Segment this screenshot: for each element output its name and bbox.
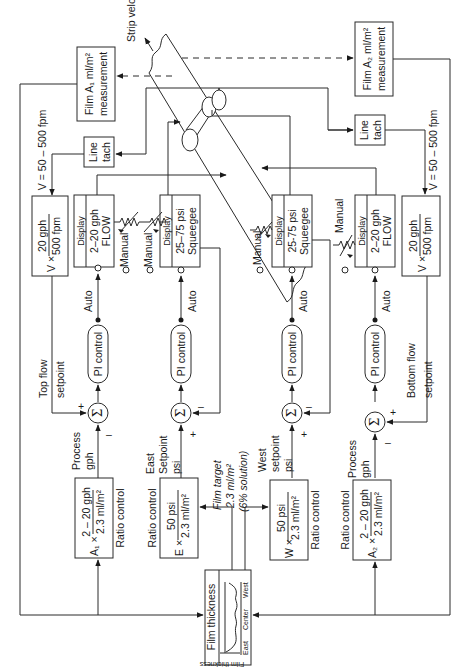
ratio-a2-den: 2.3 ml/m² <box>372 492 384 536</box>
line-tach-right-1: Line <box>358 120 370 140</box>
film-thickness-axis-label: Film thickness <box>199 661 244 668</box>
ratio-a2-label: Ratio control <box>339 491 351 550</box>
film-a2-sublabel: measurement <box>375 27 387 91</box>
line-tach-left: Line tach <box>84 137 114 167</box>
film-a2-label: Film A₂ ml/m² <box>361 27 373 90</box>
ratio-west-prefix: W × <box>283 539 295 558</box>
film-thickness-title: Film thickness <box>205 584 217 651</box>
top-flow-setpoint-2: setpoint <box>54 361 66 398</box>
process-west-1: West <box>256 448 268 472</box>
display-bottom-range: 2–20 gph <box>369 209 381 253</box>
sum-east: Σ <box>171 403 191 423</box>
film-a1-sublabel: measurement <box>97 52 109 116</box>
sum-bottom-symbol: Σ <box>368 418 382 426</box>
auto-contact-west[interactable] <box>289 267 295 273</box>
line-tach-right: Line tach <box>355 115 385 145</box>
film-target-label: Film target 2.3 ml/m² (6% solution) <box>211 451 249 512</box>
sign-top-minus: – <box>106 428 112 440</box>
film-a2-measurement: Film A₂ ml/m² measurement <box>355 22 393 96</box>
manual-label-east: Manual <box>142 233 154 267</box>
sum-west-symbol: Σ <box>285 409 299 417</box>
process-west-2: setpoint <box>269 435 281 472</box>
roller-bottom-left <box>182 129 198 151</box>
display-east-squeegee: Display 25–75 psi Squeegee <box>160 195 200 267</box>
process-top-2: gph <box>83 452 95 470</box>
display-west-range: 25-75 psi <box>286 209 298 252</box>
display-top-flow-range: 2–20 gph <box>88 209 100 253</box>
strip-velocity-label-1: Strip velocity <box>125 0 137 42</box>
process-east-3: psi <box>170 461 182 474</box>
ratio-a1-prefix: A₁ × <box>88 536 100 556</box>
display-west-header: Display <box>274 216 284 246</box>
auto-label-bottom: Auto <box>380 290 392 312</box>
manual-contact-west[interactable] <box>257 267 263 273</box>
sign-west-plus: + <box>301 428 307 440</box>
process-bottom-2: gph <box>359 460 371 478</box>
ratio-control-a1: A₁ × 2 – 20 gph 2.3 ml/m² Ratio control <box>75 478 126 558</box>
velocity-ratio-left: V × 20 gph 500 fpm <box>32 196 68 276</box>
display-top-flow-label: FLOW <box>100 216 112 246</box>
vr-left-num: 20 gph <box>36 220 48 252</box>
ratio-west-num: 50 psi <box>275 504 287 532</box>
ratio-east-prefix: E × <box>173 540 185 556</box>
top-flow-setpoint-1: Top flow <box>37 359 49 398</box>
display-top-flow: Display 2–20 gph FLOW <box>74 195 114 267</box>
manual-pot-bottom[interactable] <box>333 235 355 258</box>
display-bottom-header: Display <box>357 216 367 246</box>
ratio-a1-num: 2 – 20 gph <box>80 487 92 537</box>
ratio-east-label: Ratio control <box>146 489 158 548</box>
manual-contact-east[interactable] <box>147 267 153 273</box>
auto-label-top: Auto <box>82 290 94 312</box>
manual-label-bottom: Manual <box>333 199 345 233</box>
sum-east-symbol: Σ <box>174 409 188 417</box>
sign-bottom-plus: + <box>390 406 396 418</box>
position-center: Center <box>242 608 249 630</box>
strip-velocity-arrow <box>145 38 153 51</box>
pi-control-west: PI control <box>282 325 302 383</box>
pi-top-label: PI control <box>92 332 104 376</box>
ratio-west-den: 2.3 ml/m² <box>289 496 301 540</box>
sum-top: Σ <box>88 403 108 423</box>
velocity-ratio-right: V × 20 gph 500 fpm <box>402 196 440 276</box>
auto-label-west: Auto <box>297 290 309 312</box>
pi-bottom-label: PI control <box>369 332 381 376</box>
ratio-a2-num: 2 – 20 gph <box>358 489 370 539</box>
process-east-2: Setpoint <box>157 435 169 474</box>
pi-control-east: PI control <box>171 325 191 383</box>
manual-pot-top[interactable] <box>114 212 146 233</box>
pi-west-label: PI control <box>286 332 298 376</box>
auto-label-east: Auto <box>186 290 198 312</box>
vr-left-den: 500 fpm <box>50 217 62 255</box>
sign-east-plus: + <box>190 428 196 440</box>
vr-right-prefix: V × <box>416 256 428 272</box>
line-tach-left-2: tach <box>100 142 112 162</box>
film-a1-measurement: Film A₁ ml/m² measurement <box>77 47 115 121</box>
roller-top-2 <box>212 90 226 110</box>
film-target-3: (6% solution) <box>237 451 249 512</box>
auto-contact-top[interactable] <box>95 265 101 271</box>
sign-bottom-minus: – <box>385 436 391 448</box>
film-thickness-chart: Film thickness Film thickness East Cente… <box>199 570 251 668</box>
position-west: West <box>242 582 249 598</box>
sum-west: Σ <box>282 403 302 423</box>
ratio-control-west: W × 50 psi 2.3 ml/m² Ratio control <box>270 480 321 560</box>
display-east-range: 25–75 psi <box>174 208 186 254</box>
process-east-1: East <box>144 453 156 474</box>
pi-control-top: PI control <box>88 325 108 383</box>
film-a1-label: Film A₁ ml/m² <box>83 53 95 115</box>
manual-contact-top[interactable] <box>123 267 129 273</box>
pi-east-label: PI control <box>175 332 187 376</box>
manual-contact-bottom[interactable] <box>342 267 348 273</box>
rollers <box>182 90 226 151</box>
film-target-2: 2.3 ml/m² <box>224 464 236 509</box>
ratio-a2-prefix: A₂ × <box>366 538 378 558</box>
vr-right-den: 500 fpm <box>421 217 433 255</box>
display-west-label: Squeegee <box>298 207 310 255</box>
velocity-range-left: V = 50 – 500 fpm <box>36 110 48 191</box>
pi-control-bottom: PI control <box>365 325 385 383</box>
vr-left-prefix: V × <box>45 256 57 272</box>
auto-contact-east[interactable] <box>178 267 184 273</box>
sum-bottom: Σ <box>365 412 385 432</box>
display-top-flow-header: Display <box>76 216 86 246</box>
auto-contact-bottom[interactable] <box>372 267 378 273</box>
